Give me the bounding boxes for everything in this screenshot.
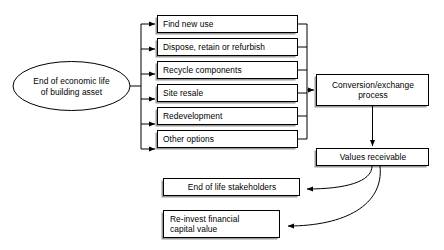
option-inbound-arrows: [141, 24, 155, 149]
option-box-4: [158, 85, 298, 102]
values-to-stakeholders-arrow: [307, 166, 372, 189]
diagram-vector-layer: [0, 0, 444, 250]
option-box-3: [158, 62, 298, 79]
process-box: [317, 75, 429, 106]
values-box: [317, 149, 429, 166]
diagram-canvas: End of economic life of building asset F…: [0, 0, 444, 250]
start-node-ellipse: [13, 62, 130, 111]
option-outbound-connectors: [298, 24, 308, 139]
option-box-5: [158, 108, 298, 125]
values-to-reinvest-arrow: [288, 166, 380, 226]
outcome-box-1: [164, 179, 300, 196]
outcome-box-2: [164, 211, 280, 238]
option-box-2: [158, 39, 298, 56]
option-boxes: [158, 16, 298, 148]
option-box-1: [158, 16, 298, 33]
option-box-6: [158, 131, 298, 148]
